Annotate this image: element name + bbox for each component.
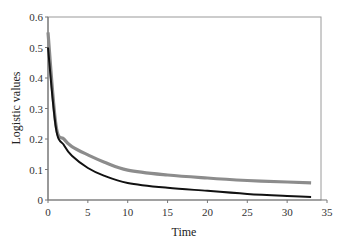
x-tick-label: 10 xyxy=(122,206,134,218)
y-tick-label: 0.4 xyxy=(29,72,43,84)
y-tick-label: 0 xyxy=(38,194,44,206)
x-tick-label: 25 xyxy=(242,206,254,218)
y-axis-title: Logistic values xyxy=(9,71,23,144)
y-tick-label: 0.2 xyxy=(29,133,43,145)
line-chart: 00.10.20.30.40.50.6 05101520253035 Time … xyxy=(0,0,339,243)
plot-frame xyxy=(48,17,321,200)
x-axis-title: Time xyxy=(172,225,197,239)
series-lines xyxy=(48,32,311,197)
y-tick-label: 0.6 xyxy=(29,11,43,23)
y-tick-label: 0.5 xyxy=(29,42,43,54)
y-axis: 00.10.20.30.40.50.6 xyxy=(29,11,48,206)
gray-series-line xyxy=(48,32,311,183)
x-axis: 05101520253035 xyxy=(45,200,333,218)
y-tick-label: 0.1 xyxy=(29,164,43,176)
y-tick-label: 0.3 xyxy=(29,103,43,115)
x-tick-label: 0 xyxy=(45,206,51,218)
x-tick-label: 15 xyxy=(162,206,174,218)
x-tick-label: 35 xyxy=(322,206,334,218)
x-tick-label: 30 xyxy=(282,206,294,218)
x-tick-label: 20 xyxy=(202,206,214,218)
x-tick-label: 5 xyxy=(85,206,91,218)
